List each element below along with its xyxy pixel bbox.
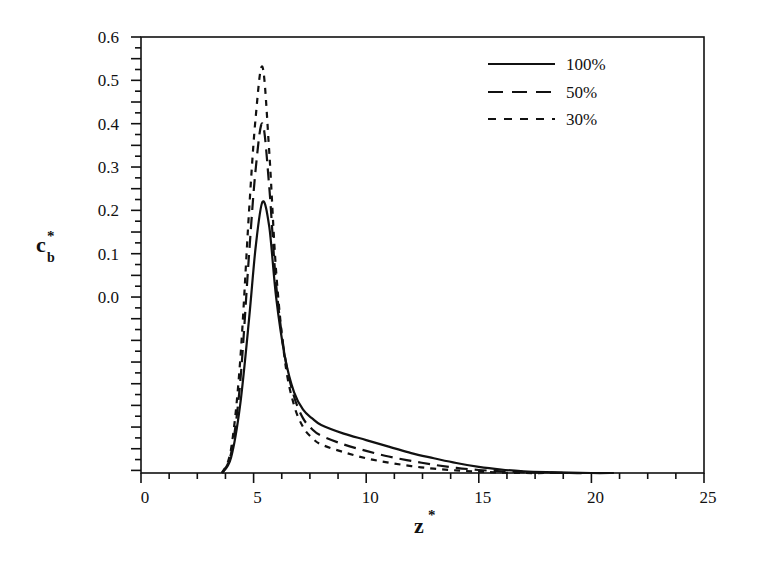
series-line-100pct — [222, 201, 614, 473]
legend-label-100: 100% — [566, 55, 606, 74]
x-tick-label: 5 — [253, 488, 262, 507]
x-tick-label: 10 — [362, 488, 379, 507]
x-axis-title-text: z — [414, 513, 424, 538]
data-series — [222, 66, 614, 473]
legend-item-30: 30% — [488, 110, 597, 129]
x-tick-label: 0 — [141, 488, 150, 507]
y-axis-title: c b * — [36, 228, 55, 265]
x-axis-title: z * — [414, 507, 436, 538]
y-axis-title-subscript: b — [47, 250, 55, 265]
x-tick-label: 25 — [700, 488, 717, 507]
line-chart: 0.60.50.40.30.20.10.0 0510152025 z * c b… — [0, 0, 757, 568]
plot-frame — [141, 37, 704, 473]
y-axis-ticks — [131, 37, 141, 470]
legend: 100% 50% 30% — [488, 55, 606, 129]
y-tick-label: 0.5 — [98, 71, 119, 90]
y-tick-label: 0.1 — [98, 245, 119, 264]
y-tick-label: 0.4 — [98, 115, 120, 134]
plot-border — [141, 37, 704, 473]
x-axis-title-superscript: * — [428, 507, 436, 523]
legend-label-30: 30% — [566, 110, 597, 129]
y-axis-tick-labels: 0.60.50.40.30.20.10.0 — [98, 28, 120, 307]
x-tick-label: 20 — [587, 488, 604, 507]
x-axis-tick-labels: 0510152025 — [141, 488, 717, 507]
legend-label-50: 50% — [566, 83, 597, 102]
x-tick-label: 15 — [474, 488, 491, 507]
legend-item-50: 50% — [488, 83, 597, 102]
y-axis-title-text: c — [36, 232, 46, 257]
y-tick-label: 0.0 — [98, 288, 119, 307]
series-line-50pct — [222, 123, 591, 473]
legend-item-100: 100% — [488, 55, 606, 74]
y-tick-label: 0.6 — [98, 28, 119, 47]
y-tick-label: 0.3 — [98, 158, 119, 177]
y-axis-title-superscript: * — [47, 228, 55, 244]
y-tick-label: 0.2 — [98, 201, 119, 220]
x-axis-ticks — [141, 473, 704, 483]
